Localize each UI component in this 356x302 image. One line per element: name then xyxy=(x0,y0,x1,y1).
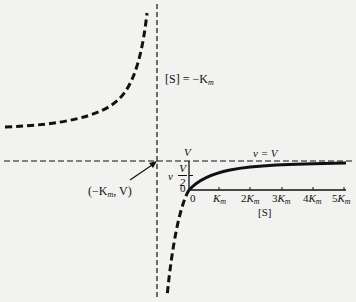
dashed-curve-lower xyxy=(167,190,189,297)
label-close: , V) xyxy=(113,184,131,198)
tick-sub: m xyxy=(316,197,322,206)
label-open: (−K xyxy=(88,184,107,198)
label-text: [S] = −K xyxy=(165,72,208,86)
x-tick-4: 4Km xyxy=(303,193,322,206)
tick-symbol: K xyxy=(278,192,285,204)
tick-sub: m xyxy=(285,197,291,206)
tick-symbol: K xyxy=(309,192,316,204)
tick-sub: m xyxy=(254,197,260,206)
tick-sub: m xyxy=(345,197,351,206)
y-tick-top-label: V xyxy=(184,147,191,158)
x-axis-label: [S] xyxy=(258,207,271,218)
x-tick-2: 2Km xyxy=(241,193,260,206)
solid-curve xyxy=(189,163,346,190)
x-tick-1: Km xyxy=(213,193,226,206)
x-tick-5: 5Km xyxy=(332,193,351,206)
y-tick-zero-label: 0 xyxy=(180,183,186,194)
dashed-curve-upper xyxy=(5,13,147,127)
x-tick-3: 3Km xyxy=(272,193,291,206)
label-sub: m xyxy=(208,78,214,87)
vertical-asymptote-label: [S] = −Km xyxy=(165,73,214,87)
x-tick-0: 0 xyxy=(190,193,196,204)
intersection-label: (−Km, V) xyxy=(88,185,132,199)
y-axis-label: v xyxy=(168,171,173,182)
tick-symbol: K xyxy=(247,192,254,204)
tick-sub: m xyxy=(220,197,226,206)
tick-symbol: K xyxy=(338,192,345,204)
horizontal-asymptote-label: v = V xyxy=(253,148,278,159)
hyperbola-figure xyxy=(0,0,356,302)
frac-num: V xyxy=(179,162,186,174)
